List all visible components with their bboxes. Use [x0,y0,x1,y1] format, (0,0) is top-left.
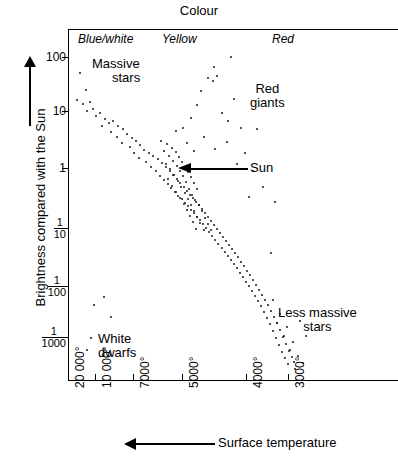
scatter-point-main-sequence-core-cluster [188,188,190,190]
scatter-point-main-sequence-core-cluster [186,209,188,211]
scatter-point-main-sequence [163,179,165,181]
scatter-point-less-massive-stars-tail [305,335,307,337]
scatter-point-main-sequence [159,175,161,177]
annotation-red-giants: Red giants [250,82,285,110]
scatter-point-main-sequence-core-cluster [163,150,165,152]
scatter-point-less-massive-stars-tail [272,299,274,301]
scatter-point-main-sequence [260,305,262,307]
scatter-point-main-sequence-core-cluster [207,223,209,225]
scatter-point-main-sequence-core-cluster [166,143,168,145]
annotation-red-giants-line2: giants [250,96,285,110]
scatter-point-main-sequence [266,317,268,319]
scatter-point-red-giants [248,196,250,198]
annotation-sun: Sun [250,161,273,175]
annotation-red-giants-line1: Red [255,81,279,96]
scatter-point-main-sequence-core-cluster [160,140,162,142]
scatter-point-main-sequence [248,285,250,287]
scatter-point-main-sequence [145,161,147,163]
scatter-point-main-sequence [251,290,253,292]
x-axis-arrow-shaft [135,443,215,445]
scatter-point-main-sequence [167,183,169,185]
scatter-point-main-sequence [287,363,289,365]
scatter-point-main-sequence [236,267,238,269]
scatter-point-main-sequence [224,251,226,253]
scatter-point-main-sequence [155,170,157,172]
y-axis-tick-label: 10 [53,104,66,118]
scatter-point-main-sequence [143,149,145,151]
scatter-point-main-sequence [179,182,181,184]
scatter-point-main-sequence [186,190,188,192]
scatter-point-main-sequence [150,166,152,168]
x-axis-label: Surface temperature [218,436,337,449]
annotation-massive-stars-line2: stars [92,71,140,85]
scatter-point-main-sequence [121,142,123,144]
scatter-point-red-giants [262,186,264,188]
scatter-point-red-giants [270,252,272,254]
scatter-point-main-sequence [269,323,271,325]
colour-band-yellow: Yellow [162,33,197,45]
scatter-point-main-sequence-core-cluster [175,191,177,193]
scatter-point-main-sequence-core-cluster [187,198,189,200]
fraction-denominator: 1000 [42,337,66,349]
scatter-point-main-sequence [101,125,103,127]
scatter-point-red-giants [193,150,195,152]
scatter-point-less-massive-stars-tail [292,341,294,343]
x-axis-tick [246,374,247,381]
scatter-point-main-sequence [193,212,195,214]
scatter-point-main-sequence [254,295,256,297]
scatter-point-main-sequence [233,263,235,265]
scatter-point-main-sequence [281,351,283,353]
x-axis-tick [95,374,96,381]
scatter-point-main-sequence-core-cluster [193,182,195,184]
scatter-point-main-sequence [205,227,207,229]
x-axis-tick [288,374,289,381]
scatter-point-main-sequence [272,330,274,332]
scatter-point-main-sequence [219,232,221,234]
scatter-point-main-sequence-core-cluster [195,228,197,230]
x-axis-tick [133,374,134,381]
scatter-point-main-sequence [222,236,224,238]
annotation-white-dwarfs-line1: White [98,331,131,346]
scatter-point-main-sequence [82,103,84,105]
fraction-denominator: 100 [48,286,66,298]
scatter-point-main-sequence [221,247,223,249]
x-axis-tick-label: 5000° [187,357,201,389]
scatter-point-main-sequence-core-cluster [203,229,205,231]
x-axis-tick-label: 7000° [138,357,152,389]
colour-band-red: Red [272,33,294,45]
scatter-point-red-giants [190,117,192,119]
scatter-point-main-sequence [225,240,227,242]
scatter-point-main-sequence [129,146,131,148]
y-axis-line [68,29,69,381]
scatter-point-main-sequence [207,216,209,218]
scatter-point-main-sequence [157,158,159,160]
scatter-point-main-sequence-core-cluster [184,192,186,194]
scatter-point-main-sequence-core-cluster [196,216,198,218]
scatter-point-white-dwarfs [93,304,95,306]
plot-top-border [68,29,398,30]
scatter-point-main-sequence-core-cluster [178,156,180,158]
scatter-point-main-sequence [217,243,219,245]
scatter-point-main-sequence-core-cluster [175,151,177,153]
scatter-point-red-giants [196,104,198,106]
scatter-point-main-sequence [181,198,183,200]
scatter-point-red-giants [256,128,258,130]
scatter-point-main-sequence [161,162,163,164]
scatter-point-red-giants [226,141,228,143]
fraction-numerator: 1 [54,217,66,228]
scatter-point-main-sequence [261,294,263,296]
scatter-point-main-sequence [187,205,189,207]
x-axis-line [68,380,398,381]
scatter-point-red-giants [216,75,218,77]
scatter-point-main-sequence [231,248,233,250]
scatter-point-main-sequence-core-cluster [192,221,194,223]
scatter-point-main-sequence [255,284,257,286]
scatter-point-main-sequence [263,311,265,313]
scatter-point-main-sequence [108,122,110,124]
scatter-point-main-sequence [216,228,218,230]
sun-arrow-shaft [190,168,248,170]
fraction-numerator: 1 [42,326,66,337]
scatter-point-main-sequence-core-cluster [189,215,191,217]
scatter-point-red-giants [274,201,276,203]
scatter-point-red-giants [227,120,229,122]
